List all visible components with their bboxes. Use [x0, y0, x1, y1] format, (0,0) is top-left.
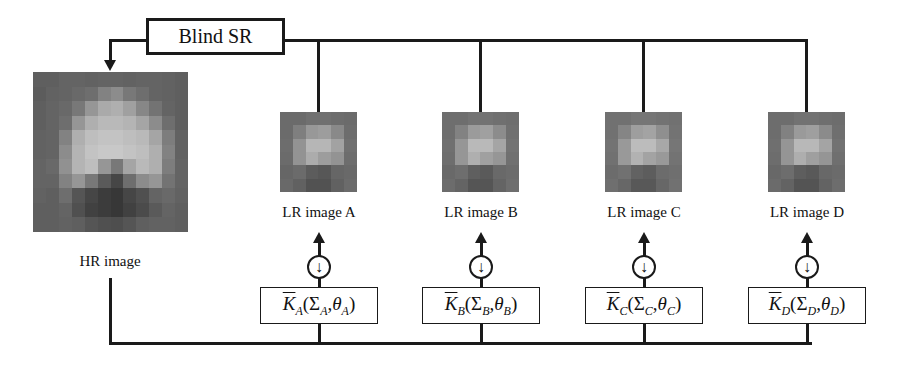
kernel-box-b: KB(ΣB,θB)	[422, 287, 540, 324]
connector-branch-top	[479, 40, 482, 113]
kernel-expression: KB(ΣB,θB)	[445, 293, 518, 319]
connector-to-hr-horizontal	[109, 39, 147, 42]
kernel-expression: KA(ΣA,θA)	[283, 293, 356, 319]
lr-image-a	[280, 112, 357, 192]
downsample-icon: ↓	[632, 255, 656, 279]
connector-hr-bottom-vertical	[109, 278, 112, 344]
connector-kernel-bottom	[480, 323, 483, 344]
arrow-down-icon	[104, 60, 116, 71]
connector-kernel-bottom	[643, 323, 646, 344]
connector-branch-top	[805, 40, 808, 113]
lr-image-label: LR image A	[282, 204, 355, 221]
lr-image-c	[605, 112, 682, 192]
blind-sr-label: Blind SR	[179, 25, 253, 48]
connector-arrow-stem	[318, 242, 321, 256]
connector-arrow-stem	[806, 242, 809, 256]
connector-branch-top	[642, 40, 645, 113]
kernel-box-c: KC(ΣC,θC)	[585, 287, 703, 324]
kernel-expression: KC(ΣC,θC)	[607, 293, 682, 319]
downsample-icon: ↓	[307, 255, 331, 279]
kernel-expression: KD(ΣD,θD)	[769, 293, 846, 319]
connector-top-horizontal	[283, 39, 808, 42]
connector-branch-top	[317, 40, 320, 113]
downsample-icon: ↓	[795, 255, 819, 279]
lr-image-d	[768, 112, 845, 192]
blind-sr-box: Blind SR	[146, 18, 285, 55]
downsample-icon: ↓	[469, 255, 493, 279]
lr-image-b	[442, 112, 519, 192]
connector-kernel-bottom	[806, 323, 809, 344]
connector-arrow-stem	[643, 242, 646, 256]
lr-image-label: LR image B	[444, 204, 517, 221]
lr-image-label: LR image D	[770, 204, 844, 221]
hr-image	[33, 72, 188, 232]
connector-kernel-bottom	[318, 323, 321, 344]
lr-image-label: LR image C	[607, 204, 680, 221]
connector-arrow-stem	[480, 242, 483, 256]
kernel-box-d: KD(ΣD,θD)	[748, 287, 866, 324]
hr-image-label: HR image	[79, 253, 140, 270]
connector-bottom-horizontal	[109, 342, 812, 345]
kernel-box-a: KA(ΣA,θA)	[260, 287, 378, 324]
